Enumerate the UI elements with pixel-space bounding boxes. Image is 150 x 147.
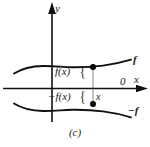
upper-point <box>90 64 96 70</box>
figure-caption: (c) <box>0 127 150 138</box>
figure-container: { { y 0 x f(x) −f(x) x f −f (c) <box>0 0 150 147</box>
x-axis <box>3 85 148 93</box>
point-x-label: x <box>96 92 100 102</box>
curve-f <box>14 60 131 74</box>
curve-f-label: f <box>133 54 137 65</box>
negative-f-of-x-label: −f(x) <box>48 91 71 102</box>
brace-upper-icon: { <box>80 64 86 79</box>
y-axis-label: y <box>55 3 60 14</box>
figure-graphic <box>0 0 150 147</box>
y-axis <box>48 2 56 122</box>
origin-label: 0 <box>120 76 126 87</box>
curve-neg-f-label: −f <box>128 105 138 116</box>
curve-neg-f <box>14 104 131 118</box>
brace-lower-icon: { <box>80 89 86 104</box>
x-axis-label: x <box>134 74 139 85</box>
f-of-x-label: f(x) <box>55 66 70 77</box>
